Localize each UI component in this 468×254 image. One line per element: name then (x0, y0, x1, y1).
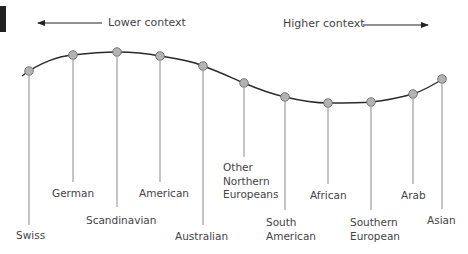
node-german-icon (69, 51, 78, 60)
node-arab-icon (409, 90, 418, 99)
node-asian-icon (438, 75, 447, 84)
label-south-american: South American (266, 216, 316, 243)
label-other-northern-europeans: Other Northern Europeans (223, 161, 278, 202)
context-continuum-diagram: Lower context Higher context Swiss Germa… (0, 0, 468, 254)
node-swiss-icon (25, 67, 34, 76)
label-african: African (310, 189, 347, 203)
context-curve (22, 52, 446, 103)
label-arab: Arab (401, 189, 426, 203)
label-german: German (52, 187, 94, 201)
node-south-american-icon (281, 93, 290, 102)
node-scandinavian-icon (113, 48, 122, 57)
node-southern-european-icon (367, 98, 376, 107)
node-markers (25, 48, 447, 108)
higher-context-label: Higher context (283, 17, 365, 30)
label-asian: Asian (427, 214, 456, 228)
node-other-northern-europeans-icon (240, 79, 249, 88)
label-scandinavian: Scandinavian (86, 214, 156, 228)
label-australian: Australian (175, 230, 228, 244)
lower-context-label: Lower context (108, 16, 186, 29)
label-american: American (139, 187, 189, 201)
node-australian-icon (199, 62, 208, 71)
node-american-icon (156, 52, 165, 61)
node-african-icon (324, 99, 333, 108)
label-southern-european: Southern European (350, 216, 400, 243)
label-swiss: Swiss (16, 229, 45, 243)
